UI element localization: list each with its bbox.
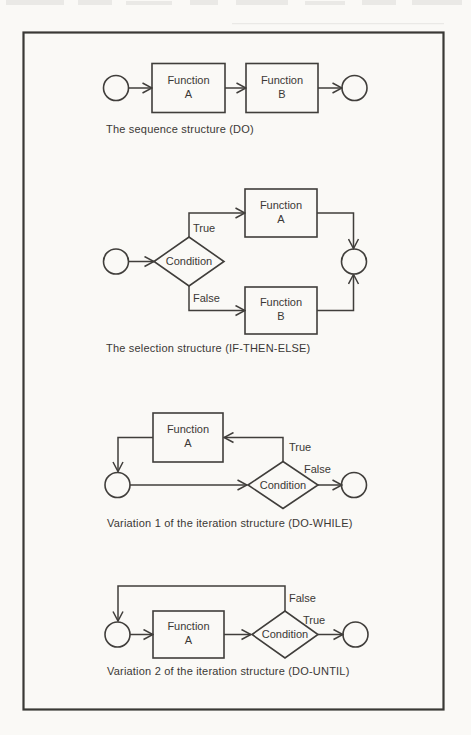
condition-label: Condition bbox=[262, 628, 308, 640]
true-branch-line bbox=[224, 438, 283, 462]
end-terminal bbox=[343, 622, 368, 647]
end-terminal bbox=[342, 76, 367, 101]
flowchart-figure: Function A Function B The sequence struc… bbox=[0, 0, 471, 735]
function-a-label-line2: A bbox=[185, 88, 193, 100]
function-a-label-line1: Function bbox=[167, 74, 209, 86]
true-branch-label: True bbox=[193, 222, 215, 234]
false-branch-label: False bbox=[289, 592, 316, 604]
function-a-label-line1: Function bbox=[260, 199, 302, 211]
merge-line-top bbox=[317, 213, 354, 249]
function-b-label-line1: Function bbox=[260, 296, 302, 308]
function-a-label-line2: A bbox=[277, 213, 285, 225]
true-branch-label: True bbox=[289, 441, 311, 453]
diagram-caption: The sequence structure (DO) bbox=[106, 123, 254, 135]
start-terminal bbox=[104, 76, 129, 101]
diagram-selection: Condition True Function A False Function… bbox=[104, 189, 367, 354]
diagram-do-while: Function A Condition True False Variatio… bbox=[105, 413, 367, 529]
start-terminal bbox=[104, 249, 129, 274]
false-branch-label: False bbox=[193, 292, 220, 304]
merge-terminal bbox=[342, 249, 367, 274]
end-terminal bbox=[342, 473, 367, 498]
diagram-caption: The selection structure (IF-THEN-ELSE) bbox=[106, 342, 310, 354]
loop-back-line bbox=[118, 586, 285, 621]
function-a-label-line2: A bbox=[184, 437, 192, 449]
false-branch-label: False bbox=[304, 463, 331, 475]
start-terminal bbox=[105, 473, 130, 498]
diagram-caption: Variation 2 of the iteration structure (… bbox=[107, 665, 350, 677]
function-a-label-line1: Function bbox=[167, 423, 209, 435]
scan-artifacts bbox=[6, 0, 462, 24]
condition-label: Condition bbox=[260, 479, 306, 491]
function-b-label-line2: B bbox=[278, 88, 285, 100]
condition-label: Condition bbox=[166, 255, 212, 267]
loop-back-line bbox=[118, 438, 153, 472]
function-a-label-line1: Function bbox=[167, 620, 209, 632]
true-branch-label: True bbox=[303, 614, 325, 626]
diagram-caption: Variation 1 of the iteration structure (… bbox=[107, 517, 353, 529]
function-a-label-line2: A bbox=[185, 634, 193, 646]
start-terminal bbox=[105, 622, 130, 647]
diagram-do-until: False Function A Condition True Variatio… bbox=[105, 586, 368, 677]
merge-line-bottom bbox=[317, 275, 354, 311]
function-b-label-line2: B bbox=[277, 310, 284, 322]
diagram-sequence: Function A Function B The sequence struc… bbox=[104, 64, 368, 136]
function-b-label-line1: Function bbox=[261, 74, 303, 86]
